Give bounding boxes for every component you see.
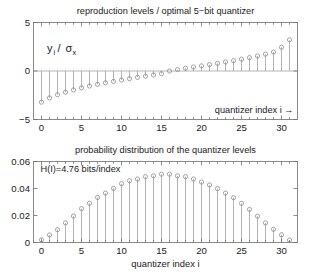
y-tick-label: 0.04: [11, 183, 30, 194]
x-tick-label: 10: [116, 122, 127, 133]
y-label-subscript-i: i: [54, 48, 56, 57]
x-axis-label: quantizer index i: [131, 258, 199, 269]
x-tick-label: 5: [79, 122, 84, 133]
x-tick-label: 25: [236, 122, 247, 133]
y-axis-label: yi / σx: [47, 42, 77, 57]
x-tick-label: 5: [79, 245, 84, 256]
figure-canvas: reproduction levels / optimal 5−bit quan…: [0, 0, 315, 280]
x-tick-label: 10: [116, 245, 127, 256]
y-tick-label: −5: [19, 114, 30, 125]
x-tick-label: 30: [276, 245, 287, 256]
y-label-subscript-x: x: [73, 48, 77, 57]
plot-reproduction-levels: reproduction levels / optimal 5−bit quan…: [19, 6, 297, 134]
y-tick-label: 0: [25, 65, 30, 76]
plot-probability-distribution: probability distribution of the quantize…: [11, 145, 297, 269]
y-label-slash: /: [58, 42, 62, 54]
x-tick-label: 0: [39, 245, 44, 256]
plot-title: probability distribution of the quantize…: [75, 145, 256, 155]
x-tick-label: 25: [236, 245, 247, 256]
axis-annotation: quantizer index i →: [215, 105, 294, 115]
stem-series: [39, 172, 291, 242]
y-tick-label: 0: [25, 237, 30, 248]
y-tick-label: 0.06: [11, 156, 30, 167]
chart-svg: reproduction levels / optimal 5−bit quan…: [0, 0, 315, 280]
entropy-annotation: H(I)=4.76 bits/index: [41, 164, 121, 174]
y-tick-label: 5: [25, 17, 30, 28]
y-tick-label: 0.02: [11, 210, 30, 221]
matlab-figure: reproduction levels / optimal 5−bit quan…: [0, 0, 315, 280]
y-label-sigma: σ: [66, 42, 73, 54]
x-tick-label: 15: [156, 122, 167, 133]
x-axis-ticks: 051015202530: [39, 23, 290, 134]
x-tick-label: 15: [156, 245, 167, 256]
x-tick-label: 0: [39, 122, 44, 133]
x-tick-label: 20: [196, 122, 207, 133]
y-label-base: y: [47, 42, 53, 54]
plot-title: reproduction levels / optimal 5−bit quan…: [77, 6, 254, 16]
x-tick-label: 30: [276, 122, 287, 133]
x-tick-label: 20: [196, 245, 207, 256]
